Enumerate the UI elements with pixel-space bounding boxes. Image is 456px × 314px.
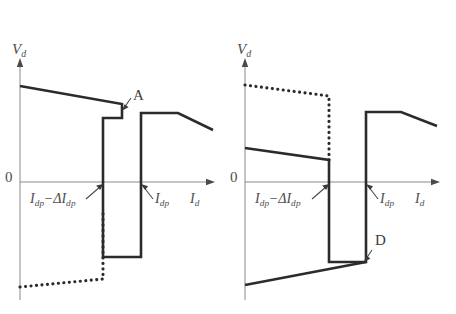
panel-b-x-axis-label-sub: d (420, 198, 425, 208)
panel-a-y-axis-label: Vd (12, 42, 26, 59)
panel-a-y-axis-label-main: V (12, 41, 21, 57)
panel-b-x-axis-arrowhead (431, 179, 440, 185)
panel-b-left-current-label: Idp−ΔIdp (255, 192, 301, 208)
figure-root: Vd 0 Idp−ΔIdp Idp Id A Vd 0 Idp−ΔIdp Idp… (0, 0, 456, 314)
panel-a-group (17, 58, 215, 300)
panel-b-left-current-sub-1: dp (260, 198, 270, 208)
panel-a-left-current-sub-1: dp (35, 198, 45, 208)
panel-b-point-label-d: D (375, 233, 386, 248)
figure-canvas (0, 0, 456, 314)
panel-b-y-axis-arrowhead (242, 58, 248, 67)
panel-b-y-axis-label-main: V (237, 41, 246, 57)
panel-b-solid-characteristic-curve (245, 112, 437, 262)
panel-b-y-axis-label-sub: d (246, 48, 251, 59)
panel-b-left-current-main-2: ΔI (278, 191, 291, 206)
panel-a-point-label-a: A (133, 88, 144, 103)
panel-a-y-axis-label-sub: d (21, 48, 26, 59)
panel-a-y-axis-arrowhead (17, 58, 23, 67)
panel-a-x-axis-label: Id (190, 192, 200, 208)
panel-a-annotation-arrow-left-current (86, 184, 103, 199)
panel-a-left-current-label: Idp−ΔIdp (30, 192, 76, 208)
panel-b-annotation-arrow-right-current (366, 184, 378, 199)
panel-a-x-axis-arrowhead (206, 179, 215, 185)
panel-a-left-current-main-2: ΔI (53, 191, 66, 206)
panel-a-right-current-label: Idp (155, 192, 169, 208)
panel-b-right-current-sub: dp (385, 198, 395, 208)
panel-b-origin-label: 0 (230, 170, 238, 185)
panel-a-right-current-sub: dp (160, 198, 170, 208)
panel-b-group (242, 58, 440, 300)
panel-b-left-current-sub-2: dp (291, 198, 301, 208)
panel-a-solid-characteristic-curve (20, 86, 213, 257)
panel-b-right-current-label: Idp (380, 192, 394, 208)
panel-b-left-current-operator: − (269, 191, 278, 206)
panel-a-annotation-arrow-right-current (141, 184, 153, 199)
panel-a-origin-label: 0 (5, 170, 13, 185)
panel-b-bottom-solid-branch (245, 262, 366, 285)
panel-b-x-axis-label: Id (415, 192, 425, 208)
panel-a-x-axis-label-sub: d (195, 198, 200, 208)
panel-b-y-axis-label: Vd (237, 42, 251, 59)
panel-a-left-current-sub-2: dp (66, 198, 76, 208)
panel-b-annotation-arrow-left-current (312, 184, 329, 199)
panel-a-left-current-operator: − (44, 191, 53, 206)
panel-a-annotation-arrow-point-a (122, 98, 131, 111)
panel-a-dotted-reference-curve (20, 210, 103, 287)
